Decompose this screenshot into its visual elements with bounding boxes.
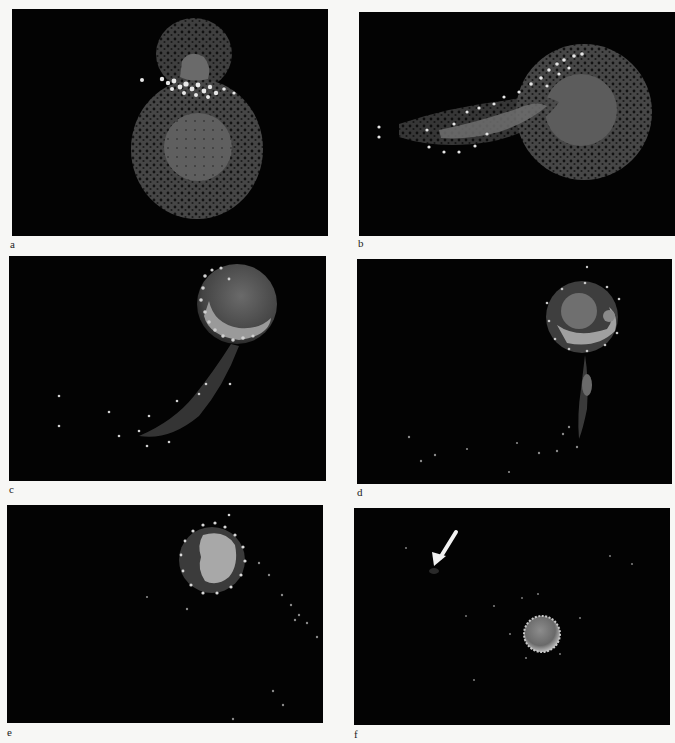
- panel-f: [354, 508, 670, 725]
- panel-a: [12, 9, 328, 236]
- panel-d: [357, 259, 672, 484]
- panel-label-c: c: [9, 484, 14, 495]
- arrow-indicator: [432, 532, 456, 566]
- simulation-render-e: [7, 505, 323, 723]
- simulation-render-d: [357, 259, 672, 484]
- simulation-render-b: [359, 12, 675, 236]
- panel-label-a: a: [10, 239, 15, 250]
- panel-b: [359, 12, 675, 236]
- simulation-render-a: [12, 9, 328, 236]
- panel-label-d: d: [357, 487, 363, 498]
- panel-c: [9, 256, 326, 481]
- panel-label-e: e: [7, 727, 12, 738]
- panel-e: [7, 505, 323, 723]
- panel-label-b: b: [358, 238, 364, 249]
- panel-label-f: f: [354, 729, 358, 740]
- simulation-render-c: [9, 256, 326, 481]
- simulation-render-f: [354, 508, 670, 725]
